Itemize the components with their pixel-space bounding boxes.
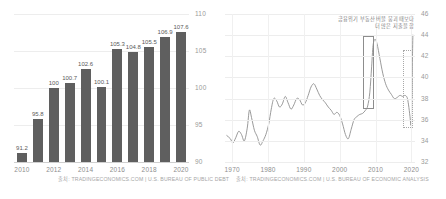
chart-annotation: 금융위기 부동산 버블 붕괴 때보다 더 많은 지출을 함 — [338, 16, 414, 30]
bar-y-tick-label: 95 — [195, 122, 203, 129]
bar-y-tick-label: 105 — [195, 48, 206, 55]
line-vertical-gridline — [304, 14, 305, 162]
line-x-tick-label: 1980 — [260, 167, 275, 174]
bar — [65, 83, 75, 162]
line-gridline — [225, 162, 415, 163]
bar-value-label: 105.5 — [142, 39, 157, 45]
bar — [49, 88, 59, 162]
line-gridline — [225, 56, 415, 57]
line-x-tick-label: 2000 — [332, 167, 347, 174]
bar-value-label: 100.7 — [62, 75, 77, 81]
line-x-tick-label: 1990 — [296, 167, 311, 174]
line-gridline — [225, 141, 415, 142]
bar-x-tick-label: 2012 — [46, 167, 61, 174]
annotation-line-1: 금융위기 부동산 버블 붕괴 때보다 — [338, 16, 414, 23]
line-gridline — [225, 14, 415, 15]
line-y-tick-label: 36 — [421, 117, 429, 124]
line-vertical-gridline — [232, 14, 233, 162]
bar-x-tick-label: 2018 — [142, 167, 157, 174]
bar-y-tick-label: 100 — [195, 85, 206, 92]
right-chart-source: 출처: TRADINGECONOMICS.COM | U.S. BUREAU O… — [236, 177, 429, 182]
line-y-tick-label: 34 — [421, 138, 429, 145]
line-gridline — [225, 77, 415, 78]
bar-value-label: 100 — [49, 80, 59, 86]
line-series-path — [225, 14, 415, 162]
bar — [160, 37, 170, 162]
bar-value-label: 95.8 — [32, 111, 44, 117]
bar-value-label: 105.3 — [110, 41, 125, 47]
dual-chart-figure: 909510010511091.295.8100100.7102.6100.11… — [0, 0, 446, 199]
left-chart-source: 출처: TRADINGECONOMICS.COM | U.S. BUREAU O… — [58, 177, 229, 182]
bar-value-label: 106.9 — [158, 29, 173, 35]
line-gridline — [225, 35, 415, 36]
line-x-tick-label: 2020 — [404, 167, 419, 174]
line-x-tick-label: 2010 — [368, 167, 383, 174]
bar-x-tick-label: 2016 — [110, 167, 125, 174]
line-vertical-gridline — [411, 14, 412, 162]
line-gridline — [225, 120, 415, 121]
bar — [81, 69, 91, 162]
bar-value-label: 102.6 — [78, 61, 93, 67]
bar-x-tick-label: 2014 — [78, 167, 93, 174]
bar — [144, 47, 154, 162]
bar-value-label: 91.2 — [16, 145, 28, 151]
line-gridline — [225, 99, 415, 100]
bar-x-tick-label: 2020 — [173, 167, 188, 174]
bar-value-label: 107.6 — [174, 24, 189, 30]
bar-value-label: 100.1 — [94, 79, 109, 85]
line-y-tick-label: 44 — [421, 32, 429, 39]
bar-gridline — [14, 14, 189, 15]
bar-chart-plot-area: 909510010511091.295.8100100.7102.6100.11… — [14, 14, 189, 162]
bar-y-tick-label: 110 — [195, 11, 206, 18]
bar-x-tick-label: 2010 — [14, 167, 29, 174]
bar-y-tick-label: 90 — [195, 159, 203, 166]
line-y-tick-label: 32 — [421, 159, 429, 166]
bar-axis-baseline — [14, 162, 189, 163]
right-chart-panel: 3234363840424446197019801990200020102020… — [223, 0, 446, 199]
bar — [17, 153, 27, 162]
annotation-line-2: 더 많은 지출을 함 — [338, 23, 414, 30]
bar — [128, 52, 138, 162]
line-vertical-gridline — [268, 14, 269, 162]
bar — [112, 49, 122, 162]
line-y-tick-label: 46 — [421, 11, 429, 18]
line-x-tick-label: 1970 — [225, 167, 240, 174]
bar — [33, 119, 43, 162]
left-chart-panel: 909510010511091.295.8100100.7102.6100.11… — [0, 0, 223, 199]
line-y-tick-label: 38 — [421, 96, 429, 103]
bar — [176, 32, 186, 162]
line-vertical-gridline — [340, 14, 341, 162]
line-chart-plot-area: 3234363840424446197019801990200020102020 — [225, 14, 415, 162]
line-vertical-gridline — [376, 14, 377, 162]
bar-value-label: 104.8 — [126, 44, 141, 50]
bar — [97, 87, 107, 162]
line-y-tick-label: 40 — [421, 74, 429, 81]
line-y-tick-label: 42 — [421, 53, 429, 60]
